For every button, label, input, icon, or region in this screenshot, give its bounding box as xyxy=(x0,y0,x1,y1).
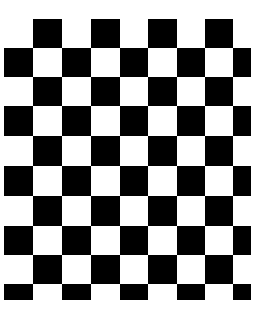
dark-square xyxy=(91,19,120,48)
dark-square xyxy=(148,77,177,106)
dark-square xyxy=(4,226,33,255)
dark-square xyxy=(4,106,33,136)
dark-square xyxy=(177,226,205,255)
dark-square xyxy=(120,284,148,300)
dark-square xyxy=(177,106,205,136)
dark-square xyxy=(4,166,33,196)
dark-square xyxy=(148,255,177,284)
dark-square xyxy=(233,166,251,196)
dark-square xyxy=(120,166,148,196)
dark-square xyxy=(205,136,233,166)
dark-square xyxy=(33,19,62,48)
dark-square xyxy=(205,77,233,106)
dark-square xyxy=(91,255,120,284)
dark-square xyxy=(4,48,33,77)
dark-square xyxy=(148,136,177,166)
dark-square xyxy=(233,284,251,300)
dark-square xyxy=(91,77,120,106)
dark-square xyxy=(33,136,62,166)
dark-square xyxy=(177,284,205,300)
dark-square xyxy=(120,226,148,255)
dark-square xyxy=(205,255,233,284)
dark-square xyxy=(62,284,91,300)
dark-square xyxy=(120,48,148,77)
dark-square xyxy=(233,106,251,136)
dark-square xyxy=(233,226,251,255)
dark-square xyxy=(233,48,251,77)
dark-square xyxy=(205,19,233,48)
checkerboard xyxy=(0,0,256,310)
dark-square xyxy=(205,196,233,226)
dark-square xyxy=(33,255,62,284)
dark-square xyxy=(62,226,91,255)
dark-square xyxy=(62,166,91,196)
dark-square xyxy=(177,166,205,196)
dark-square xyxy=(91,196,120,226)
dark-square xyxy=(33,77,62,106)
dark-square xyxy=(33,196,62,226)
dark-square xyxy=(4,284,33,300)
dark-square xyxy=(91,136,120,166)
dark-square xyxy=(148,196,177,226)
dark-square xyxy=(120,106,148,136)
dark-square xyxy=(148,19,177,48)
dark-square xyxy=(177,48,205,77)
dark-square xyxy=(62,48,91,77)
dark-square xyxy=(62,106,91,136)
